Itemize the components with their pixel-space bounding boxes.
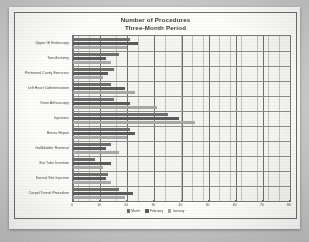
category-label: Hernia Repair: [17, 125, 71, 141]
bar-february: [73, 102, 130, 105]
bar-group: [73, 51, 290, 66]
legend-label: March: [131, 209, 140, 213]
bar-february: [73, 132, 135, 135]
legend-swatch-icon: [127, 209, 130, 212]
bar-series-container: [73, 36, 290, 201]
chart-frame: Number of Procedures Three-Month Period …: [14, 12, 297, 219]
bar-january: [73, 181, 111, 184]
bar-march: [73, 83, 111, 86]
bar-march: [73, 98, 114, 101]
bar-group: [73, 186, 290, 201]
bar-march: [73, 128, 130, 131]
bar-january: [73, 76, 103, 79]
axis-tick: [99, 200, 100, 202]
screenshot-root: Number of Procedures Three-Month Period …: [0, 0, 309, 242]
plot-wrapper: Upper GI EndoscopyTonsillectomyPeritonea…: [15, 13, 296, 218]
bar-group: [73, 126, 290, 141]
bar-march: [73, 173, 108, 176]
axis-tick: [208, 200, 209, 202]
bar-january: [73, 151, 119, 154]
legend-label: January: [173, 209, 185, 213]
bar-group: [73, 171, 290, 186]
category-label: Knee Arthroscopy: [17, 95, 71, 111]
bar-january: [73, 121, 195, 124]
bar-group: [73, 36, 290, 51]
bar-february: [73, 72, 108, 75]
bar-february: [73, 57, 106, 60]
axis-tick-label: 40: [179, 203, 183, 207]
legend-label: February: [150, 209, 163, 213]
bar-group: [73, 111, 290, 126]
axis-tick: [181, 200, 182, 202]
axis-tick-label: 80: [287, 203, 291, 207]
major-gridline: [290, 36, 291, 201]
bar-january: [73, 91, 135, 94]
category-label: Injections: [17, 110, 71, 126]
legend-swatch-icon: [168, 209, 171, 212]
legend-item[interactable]: January: [168, 209, 184, 213]
bar-january: [73, 106, 157, 109]
axis-tick-label: 0: [71, 203, 73, 207]
bar-february: [73, 147, 106, 150]
chart-paper-card: Number of Procedures Three-Month Period …: [9, 7, 300, 229]
bar-march: [73, 113, 168, 116]
bar-february: [73, 162, 111, 165]
bar-january: [73, 166, 103, 169]
bar-march: [73, 53, 119, 56]
category-label: Upper GI Endoscopy: [17, 35, 71, 51]
bar-march: [73, 68, 114, 71]
bar-january: [73, 136, 127, 139]
legend-item[interactable]: March: [127, 209, 141, 213]
category-label: Ear Tube Insertion: [17, 155, 71, 171]
bar-march: [73, 38, 130, 41]
axis-tick: [126, 200, 127, 202]
category-axis-labels: Upper GI EndoscopyTonsillectomyPeritonea…: [17, 35, 71, 200]
bar-february: [73, 177, 106, 180]
axis-tick: [235, 200, 236, 202]
chart-legend: MarchFebruaryJanuary: [15, 209, 296, 213]
bar-group: [73, 96, 290, 111]
axis-tick: [262, 200, 263, 202]
legend-item[interactable]: February: [145, 209, 163, 213]
bar-january: [73, 196, 125, 199]
bar-march: [73, 158, 95, 161]
category-label: Peritoneal Cavity Exercises: [17, 65, 71, 81]
bar-group: [73, 81, 290, 96]
category-label: Carpal Tunnel Procedure: [17, 185, 71, 201]
category-label: Gallbladder Removal: [17, 140, 71, 156]
bar-group: [73, 156, 290, 171]
bar-february: [73, 42, 138, 45]
axis-tick-label: 10: [97, 203, 101, 207]
category-label: Tonsillectomy: [17, 50, 71, 66]
axis-tick-label: 30: [151, 203, 155, 207]
axis-tick: [72, 200, 73, 202]
axis-tick-label: 50: [206, 203, 210, 207]
axis-tick: [289, 200, 290, 202]
bar-january: [73, 46, 127, 49]
bar-march: [73, 143, 111, 146]
bar-february: [73, 192, 133, 195]
bar-group: [73, 66, 290, 81]
legend-swatch-icon: [145, 209, 148, 212]
bar-february: [73, 117, 179, 120]
axis-tick-label: 20: [124, 203, 128, 207]
axis-tick: [153, 200, 154, 202]
bar-january: [73, 61, 111, 64]
bar-march: [73, 188, 119, 191]
category-label: Dermal Site Injection: [17, 170, 71, 186]
bar-february: [73, 87, 125, 90]
plot-area: [72, 35, 291, 202]
axis-tick-label: 70: [260, 203, 264, 207]
category-label: Left Heart Catheterization: [17, 80, 71, 96]
axis-tick-label: 60: [233, 203, 237, 207]
bar-group: [73, 141, 290, 156]
